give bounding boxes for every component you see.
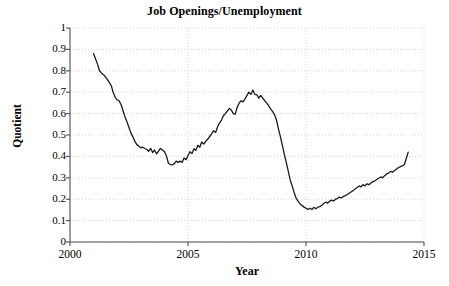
plot-area xyxy=(0,0,449,286)
chart-container: Job Openings/Unemployment Quotient Year … xyxy=(0,0,449,286)
data-series-line xyxy=(94,54,409,210)
horizontal-gridlines xyxy=(70,28,424,242)
y-axis-ticks xyxy=(66,28,70,242)
x-axis-ticks xyxy=(70,242,424,246)
